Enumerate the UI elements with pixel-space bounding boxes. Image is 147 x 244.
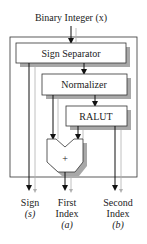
output-first-index: First Index (a) xyxy=(47,197,87,230)
ralut-label: RALUT xyxy=(79,111,112,122)
normalizer-label: Normalizer xyxy=(61,79,107,90)
sign-separator-label: Sign Separator xyxy=(41,48,101,59)
output-sign: Sign (s) xyxy=(12,197,48,219)
output-second-index: Second Index (b) xyxy=(96,197,140,230)
input-label: Binary Integer (x) xyxy=(20,12,122,23)
adder-label: + xyxy=(62,153,68,164)
